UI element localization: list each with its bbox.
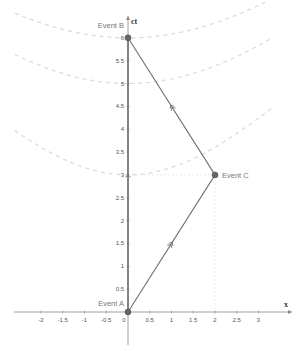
ct-axis-arrow-icon xyxy=(126,16,130,20)
ct-tick-label: 3.5 xyxy=(116,149,125,155)
ct-tick-label: 4.5 xyxy=(116,103,125,109)
x-tick-label: 0.5 xyxy=(146,317,155,323)
worldline-2 xyxy=(128,38,215,175)
ct-tick-label: 4 xyxy=(121,126,125,132)
x-tick-label: 1 xyxy=(170,317,174,323)
x-tick-label: 2 xyxy=(213,317,217,323)
event-point-1 xyxy=(125,35,131,41)
ct-tick-label: 2 xyxy=(121,218,125,224)
plot-canvas: xct-2-1.5-1-0.500.511.522.530.511.522.53… xyxy=(0,0,299,351)
events: Event AEvent BEvent C xyxy=(98,21,250,315)
ct-tick-label: 1 xyxy=(121,263,125,269)
hyperbola-ct-6 xyxy=(15,2,265,38)
x-tick-label: 2.5 xyxy=(233,317,242,323)
x-tick-label: -1 xyxy=(82,317,88,323)
x-axis-arrow-icon xyxy=(288,310,292,314)
direction-arrow-icon xyxy=(167,241,174,248)
ct-tick-label: 1.5 xyxy=(116,240,125,246)
direction-arrow-icon xyxy=(169,104,176,111)
event-label: Event B xyxy=(98,21,124,30)
x-tick-label: 0 xyxy=(122,317,126,323)
ct-tick-label: 0.5 xyxy=(116,286,125,292)
worldline-1 xyxy=(128,175,215,312)
x-axis-label: x xyxy=(284,300,288,309)
event-point-2 xyxy=(212,172,218,178)
x-tick-label: -1.5 xyxy=(58,317,69,323)
event-label: Event A xyxy=(98,299,124,308)
spacetime-diagram: xct-2-1.5-1-0.500.511.522.530.511.522.53… xyxy=(0,0,299,351)
x-tick-label: 3 xyxy=(257,317,261,323)
x-tick-label: -0.5 xyxy=(101,317,112,323)
ct-axis-label: ct xyxy=(131,17,138,26)
x-tick-label: 1.5 xyxy=(189,317,198,323)
event-point-0 xyxy=(125,309,131,315)
invariant-hyperbolae xyxy=(15,2,272,175)
x-tick-label: -2 xyxy=(38,317,44,323)
event-label: Event C xyxy=(222,171,249,180)
axes: xct-2-1.5-1-0.500.511.522.530.511.522.53… xyxy=(14,16,292,345)
ct-tick-label: 2.5 xyxy=(116,195,125,201)
ct-tick-label: 3 xyxy=(121,172,125,178)
hyperbola-ct-3 xyxy=(15,108,272,175)
ct-tick-label: 5.5 xyxy=(116,58,125,64)
